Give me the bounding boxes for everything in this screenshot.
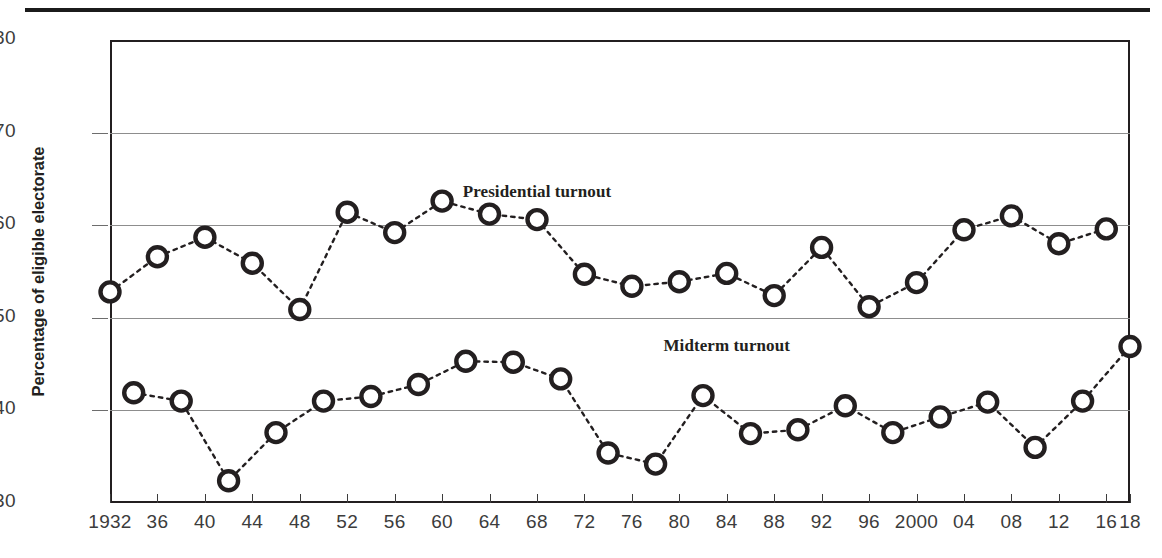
x-axis-tick-mark [822,494,823,503]
x-axis-tick-label: 40 [194,511,216,533]
chart-figure: Percentage of eligible electorate 304050… [0,0,1162,558]
y-axis-tick-mark [92,133,108,134]
x-axis-tick-label: 56 [384,511,406,533]
gridline [110,133,1130,134]
y-axis-tick-label: 70 [0,120,16,142]
y-axis-tick-label: 80 [0,27,16,49]
x-axis-tick-label: 44 [241,511,263,533]
x-axis-tick-label: 68 [526,511,548,533]
x-axis-tick-mark [869,494,870,503]
x-axis-tick-mark [1011,494,1012,503]
top-rule-divider [25,8,1150,12]
plot-frame [110,40,1130,503]
x-axis-tick-label: 2000 [895,511,938,533]
gridline [110,410,1130,411]
x-axis-tick-label: 52 [336,511,358,533]
x-axis-tick-label: 64 [479,511,501,533]
x-axis-tick-mark [727,494,728,503]
x-axis-tick-mark [917,494,918,503]
y-axis-tick-mark [92,410,108,411]
y-axis-tick-mark [92,318,108,319]
x-axis-tick-label: 16 [1095,511,1117,533]
x-axis-tick-mark [1059,494,1060,503]
y-axis-tick-label: 40 [0,397,16,419]
x-axis-tick-label: 72 [574,511,596,533]
x-axis-tick-mark [632,494,633,503]
x-axis-tick-mark [584,494,585,503]
plot-area [110,40,1130,503]
x-axis-tick-label: 60 [431,511,453,533]
y-axis-tick-label: 60 [0,212,16,234]
gridline [110,225,1130,226]
series-label: Midterm turnout [663,336,790,356]
x-axis-tick-label: 96 [858,511,880,533]
x-axis-tick-mark [490,494,491,503]
x-axis-tick-mark [395,494,396,503]
x-axis-tick-mark [774,494,775,503]
x-axis-tick-label: 1932 [88,511,131,533]
x-axis-tick-label: 92 [811,511,833,533]
x-axis-tick-mark [300,494,301,503]
x-axis-tick-mark [110,494,111,503]
x-axis-tick-label: 48 [289,511,311,533]
x-axis-tick-label: 04 [953,511,975,533]
x-axis-tick-label: 18 [1119,511,1141,533]
x-axis-tick-label: 36 [147,511,169,533]
x-axis-tick-mark [157,494,158,503]
series-label: Presidential turnout [463,182,612,202]
x-axis-tick-label: 84 [716,511,738,533]
y-axis-tick-mark [92,225,108,226]
x-axis-tick-mark [679,494,680,503]
y-axis-tick-label: 30 [0,490,16,512]
x-axis-tick-label: 88 [763,511,785,533]
x-axis-tick-mark [1106,494,1107,503]
x-axis-tick-mark [442,494,443,503]
gridline [110,318,1130,319]
x-axis-tick-mark [205,494,206,503]
y-axis-title: Percentage of eligible electorate [29,62,48,482]
x-axis-tick-mark [964,494,965,503]
x-axis-tick-label: 76 [621,511,643,533]
x-axis-tick-mark [1130,494,1131,503]
x-axis-tick-label: 12 [1048,511,1070,533]
x-axis-tick-label: 80 [668,511,690,533]
x-axis-tick-mark [537,494,538,503]
y-axis-tick-label: 50 [0,305,16,327]
x-axis-tick-mark [252,494,253,503]
x-axis-tick-label: 08 [1001,511,1023,533]
x-axis-tick-mark [347,494,348,503]
